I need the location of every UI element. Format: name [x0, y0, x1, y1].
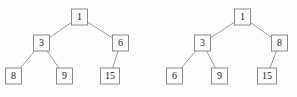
tree-node-label: 8 [11, 70, 16, 81]
tree-edge [251, 23, 272, 38]
tree-node-label: 15 [262, 70, 272, 81]
tree-node-label: 1 [77, 11, 82, 22]
tree-edge [207, 51, 216, 68]
tree-node[interactable]: 9 [57, 68, 73, 84]
tree-node-label: 15 [105, 70, 115, 81]
tree-node-label: 6 [172, 70, 177, 81]
tree-node[interactable]: 1 [72, 9, 88, 25]
tree-edge [88, 22, 113, 38]
binary-tree-figure: 13689151386915 [0, 0, 297, 97]
tree-node-label: 9 [62, 70, 67, 81]
tree-node-label: 3 [39, 37, 44, 48]
tree-node[interactable]: 1 [235, 9, 251, 25]
tree-edge [20, 51, 34, 68]
tree-node-label: 3 [200, 37, 205, 48]
tree-node[interactable]: 9 [212, 68, 228, 84]
tree-node[interactable]: 3 [34, 35, 50, 51]
tree-node-label: 9 [217, 70, 222, 81]
tree-node-label: 6 [118, 37, 123, 48]
tree-node[interactable]: 3 [195, 35, 211, 51]
tree-node-label: 8 [277, 37, 282, 48]
tree-edge [50, 22, 72, 37]
tree-edge [181, 51, 195, 68]
tree-diagram-canvas: 13689151386915 [0, 0, 297, 97]
tree-nodes: 1368915 [6, 9, 129, 84]
tree-node[interactable]: 8 [6, 68, 22, 84]
tree-nodes: 1386915 [167, 9, 288, 84]
tree-edge [47, 51, 59, 68]
tree-node[interactable]: 15 [258, 68, 277, 84]
tree-left-tree: 1368915 [6, 9, 129, 84]
tree-right-tree: 1386915 [167, 9, 288, 84]
tree-edge [113, 51, 118, 68]
tree-node[interactable]: 15 [101, 68, 120, 84]
tree-edge [211, 22, 235, 38]
tree-node[interactable]: 8 [272, 35, 288, 51]
tree-node[interactable]: 6 [113, 35, 129, 51]
tree-node[interactable]: 6 [167, 68, 183, 84]
tree-edge [270, 51, 276, 68]
tree-node-label: 1 [240, 11, 245, 22]
